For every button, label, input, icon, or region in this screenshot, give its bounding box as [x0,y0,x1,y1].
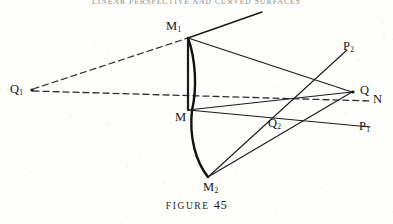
paper-speckle [356,59,358,61]
paper-speckle [31,196,32,197]
paper-speckle [280,215,281,216]
paper-speckle [160,106,162,108]
q1-to-n-dashed [33,91,371,101]
paper-speckle [130,66,132,68]
label-base: M [166,19,177,33]
label-subscript: 1 [19,88,23,97]
dashed-construction-lines [33,38,371,101]
paper-speckle [162,182,164,184]
paper-speckle [188,29,189,30]
paper-speckle [8,143,9,144]
paper-speckle [169,187,170,188]
point-label-p2: P2 [343,40,354,53]
label-subscript: 1 [366,125,370,134]
label-base: M [203,180,214,194]
paper-speckle [252,140,254,142]
m1-upper-ray [188,12,262,38]
paper-speckle [356,183,357,184]
paper-speckle [154,5,156,7]
paper-speckle [29,13,31,15]
paper-speckle [298,168,300,170]
meridian-arc-lower [191,110,208,177]
paper-speckle [318,136,319,137]
paper-speckle [215,196,216,197]
paper-speckle [60,169,61,170]
paper-speckle [4,222,5,223]
solid-projection-lines [188,12,370,177]
paper-speckle [77,4,79,6]
point-label-q: Q [360,84,369,97]
paper-speckle [281,41,283,43]
label-base: P [359,119,366,133]
label-subscript: 2 [214,186,218,195]
paper-speckle [228,104,230,106]
figure-page: LINEAR PERSPECTIVE AND CURVED SURFACES Q… [0,0,393,224]
paper-speckle [257,186,258,187]
paper-speckle [131,6,133,8]
m1-to-q [188,38,352,92]
caption-word: FIGURE [166,201,210,211]
paper-speckle [109,215,110,216]
paper-speckle [208,200,210,202]
paper-speckle [13,90,14,91]
paper-speckle [39,75,41,77]
paper-speckle [318,4,319,5]
paper-speckle [165,101,167,103]
point-label-p1: P1 [359,120,370,133]
label-base: Q [360,83,369,97]
paper-speckle [352,81,353,82]
paper-speckle [3,191,4,192]
label-subscript: 2 [350,45,354,54]
paper-speckle [14,171,16,173]
paper-speckle [173,214,174,215]
paper-speckle [123,8,124,9]
paper-speckle [191,142,192,143]
paper-speckle [305,11,306,12]
paper-speckle [44,99,45,100]
point-marker-q [351,90,354,93]
m2-to-q [208,92,352,177]
paper-speckle [30,69,31,70]
paper-speckle [101,79,102,80]
paper-speckle [69,44,70,45]
figure-caption: FIGURE 45 [0,198,393,213]
geometric-diagram [0,0,393,224]
point-label-m1: M1 [166,20,181,33]
paper-speckle [123,66,125,68]
label-base: M [175,110,186,124]
paper-speckle [108,13,109,14]
paper-speckle [383,36,385,38]
paper-speckle [126,165,128,167]
label-base: N [373,92,382,106]
paper-speckle [336,103,337,104]
point-label-m: M [175,111,186,124]
paper-speckle [29,185,30,186]
paper-speckle [344,74,345,75]
paper-speckle [29,171,31,173]
label-base: P [343,39,350,53]
paper-speckle [351,209,352,210]
paper-speckle [224,40,226,42]
point-label-n: N [373,93,382,106]
paper-speckle [122,83,123,84]
paper-speckle [266,47,268,49]
paper-speckle [185,65,187,67]
point-label-q2: Q2 [268,117,281,130]
paper-speckle [256,151,258,153]
paper-speckle [275,209,277,211]
paper-speckle [358,16,359,17]
caption-number: 45 [214,198,228,212]
point-label-m2: M2 [203,181,218,194]
paper-speckle [201,65,202,66]
m-to-q [188,92,352,110]
label-subscript: 2 [277,122,281,131]
paper-speckle [79,147,80,148]
q1-to-m1-dashed [33,38,188,89]
paper-speckle [344,22,346,24]
paper-speckle [178,11,179,12]
paper-speckle [93,44,95,46]
point-marker-q1 [30,88,33,91]
paper-speckle [168,142,170,144]
meridian-arc-group [188,38,208,177]
label-base: Q [10,82,19,96]
